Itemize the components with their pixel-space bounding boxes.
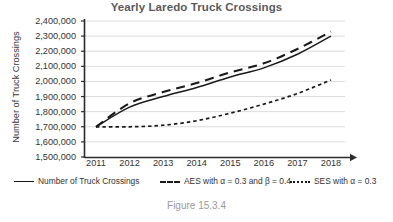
legend-item[interactable]: Number of Truck Crossings xyxy=(14,176,139,186)
figure-container: Yearly Laredo Truck Crossings Number of … xyxy=(0,0,393,222)
legend-item[interactable]: SES with α = 0.3 xyxy=(290,176,376,186)
solid-line-marker xyxy=(14,177,34,185)
series-line-1 xyxy=(96,32,331,127)
dotted-line-marker xyxy=(290,177,310,185)
data-series-group xyxy=(96,32,331,127)
dashed-line-marker xyxy=(160,177,180,185)
x-axis-arrow-icon xyxy=(350,154,357,162)
legend-item[interactable]: AES with α = 0.3 and β = 0.4 xyxy=(160,176,291,186)
chart-legend: Number of Truck CrossingsAES with α = 0.… xyxy=(0,176,393,190)
legend-label: SES with α = 0.3 xyxy=(314,176,376,186)
legend-label: AES with α = 0.3 and β = 0.4 xyxy=(184,176,291,186)
figure-caption: Figure 15.3.4 xyxy=(0,200,393,211)
legend-label: Number of Truck Crossings xyxy=(38,176,139,186)
series-line-2 xyxy=(96,80,331,127)
